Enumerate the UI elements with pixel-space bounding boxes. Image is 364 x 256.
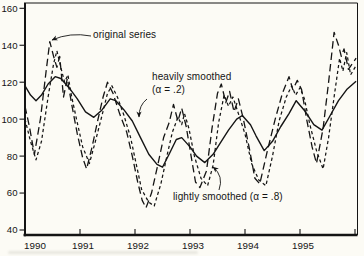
y-tick-label: 160 <box>1 3 17 14</box>
annotation-heavily-smoothed-line2: (α = .2) <box>152 84 185 95</box>
y-tick-label: 80 <box>7 151 18 162</box>
annotation-arrow-original-series <box>52 35 91 40</box>
y-tick-label: 140 <box>1 40 17 51</box>
annotation-lightly-smoothed: lightly smoothed (α = .8) <box>173 191 283 204</box>
cropped-caption-remnant <box>8 251 198 254</box>
x-tick-label: 1991 <box>72 240 94 251</box>
y-tick-label: 100 <box>1 114 17 125</box>
annotation-original-series: original series <box>93 29 156 42</box>
x-tick-label: 1994 <box>237 240 259 251</box>
annotation-heavily-smoothed: heavily smoothed (α = .2) <box>152 71 231 96</box>
y-tick-label: 120 <box>1 77 17 88</box>
y-tick-label: 60 <box>7 187 18 198</box>
series-long-dash <box>25 32 356 208</box>
exponential-smoothing-chart: 1601401201008060401990199119921993199419… <box>0 0 364 256</box>
x-tick-label: 1990 <box>24 240 46 251</box>
chart-canvas: 1601401201008060401990199119921993199419… <box>0 0 364 256</box>
annotation-lightly-smoothed-text: lightly smoothed (α = .8) <box>173 191 283 202</box>
annotation-heavily-smoothed-line1: heavily smoothed <box>152 71 231 82</box>
annotation-original-series-text: original series <box>93 29 156 40</box>
x-tick-label: 1995 <box>292 240 314 251</box>
x-tick-label: 1993 <box>182 240 204 251</box>
y-tick-label: 40 <box>7 224 18 235</box>
x-tick-label: 1992 <box>127 240 149 251</box>
annotation-arrow-heavily-smoothed <box>139 99 147 117</box>
annotation-arrow-lightly-smoothed <box>213 167 221 190</box>
